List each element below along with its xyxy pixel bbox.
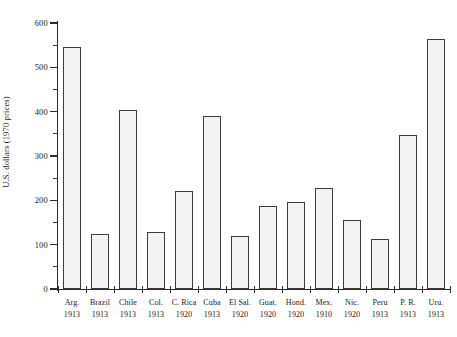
y-tick-label: 0 xyxy=(24,284,48,294)
plot-area xyxy=(58,23,450,289)
bar xyxy=(371,239,390,289)
x-axis-label-name: Hond. xyxy=(282,297,310,309)
bar xyxy=(427,39,446,289)
x-axis-label-year: 1913 xyxy=(366,309,394,321)
x-axis-label-year: 1913 xyxy=(86,309,114,321)
bar xyxy=(203,116,222,289)
bar xyxy=(147,232,166,289)
x-axis-label-name: P. R. xyxy=(394,297,422,309)
x-axis-label-name: Uru. xyxy=(422,297,450,309)
x-axis-label-name: Chile xyxy=(114,297,142,309)
x-axis-label-year: 1920 xyxy=(282,309,310,321)
x-axis-label-year: 1910 xyxy=(310,309,338,321)
y-tick-major xyxy=(50,22,58,23)
x-axis-label-name: Cuba xyxy=(198,297,226,309)
bar xyxy=(175,191,194,289)
bar xyxy=(287,202,306,289)
y-axis-title: U.S. dollars (1970 prices) xyxy=(1,96,11,187)
x-axis-label-name: C. Rica xyxy=(170,297,198,309)
x-tick xyxy=(450,286,451,293)
y-tick-major xyxy=(50,111,58,112)
x-axis-label: Peru1913 xyxy=(366,297,394,320)
bar xyxy=(91,234,110,289)
x-axis-label: Nic.1920 xyxy=(338,297,366,320)
bar xyxy=(231,236,250,289)
x-axis-label-name: Brazil xyxy=(86,297,114,309)
x-axis-label: Col.1913 xyxy=(142,297,170,320)
y-tick-major xyxy=(50,67,58,68)
x-axis-label-year: 1913 xyxy=(422,309,450,321)
x-axis-label-name: Mex. xyxy=(310,297,338,309)
y-tick-major xyxy=(50,244,58,245)
y-tick-label: 400 xyxy=(24,107,48,117)
x-axis-label: Uru.1913 xyxy=(422,297,450,320)
x-axis-label: C. Rica1920 xyxy=(170,297,198,320)
x-axis-label-name: Arg. xyxy=(58,297,86,309)
x-axis-label-year: 1913 xyxy=(142,309,170,321)
bar xyxy=(63,47,82,289)
x-axis-label-year: 1920 xyxy=(170,309,198,321)
bar-chart: U.S. dollars (1970 prices) 0100200300400… xyxy=(0,0,457,337)
x-axis-label-year: 1920 xyxy=(338,309,366,321)
x-axis-label: Brazil1913 xyxy=(86,297,114,320)
y-tick-major xyxy=(50,288,58,289)
x-axis-label: Mex.1910 xyxy=(310,297,338,320)
x-axis-label: El Sal.1920 xyxy=(226,297,254,320)
bar xyxy=(119,110,138,289)
x-axis-label-year: 1913 xyxy=(198,309,226,321)
y-tick-label: 500 xyxy=(24,62,48,72)
y-tick-major xyxy=(50,155,58,156)
x-axis-label: P. R.1913 xyxy=(394,297,422,320)
x-axis-label-name: Col. xyxy=(142,297,170,309)
x-axis-label: Chile1913 xyxy=(114,297,142,320)
x-axis-label: Arg.1913 xyxy=(58,297,86,320)
y-tick-label: 100 xyxy=(24,240,48,250)
x-axis-label-name: Guat. xyxy=(254,297,282,309)
y-tick-label: 300 xyxy=(24,151,48,161)
y-tick-major xyxy=(50,200,58,201)
bar xyxy=(259,206,278,289)
x-axis-label: Hond.1920 xyxy=(282,297,310,320)
x-axis-label-year: 1913 xyxy=(58,309,86,321)
x-axis-label-year: 1913 xyxy=(114,309,142,321)
x-axis-label-name: Peru xyxy=(366,297,394,309)
y-tick-label: 200 xyxy=(24,195,48,205)
bar xyxy=(315,188,334,289)
x-axis-label-year: 1920 xyxy=(254,309,282,321)
x-axis-label-year: 1920 xyxy=(226,309,254,321)
x-axis-label: Guat.1920 xyxy=(254,297,282,320)
bar xyxy=(399,135,418,289)
x-axis-label-name: El Sal. xyxy=(226,297,254,309)
x-axis-label-year: 1913 xyxy=(394,309,422,321)
x-axis-label: Cuba1913 xyxy=(198,297,226,320)
bar xyxy=(343,220,362,289)
y-tick-label: 600 xyxy=(24,18,48,28)
x-axis-label-name: Nic. xyxy=(338,297,366,309)
